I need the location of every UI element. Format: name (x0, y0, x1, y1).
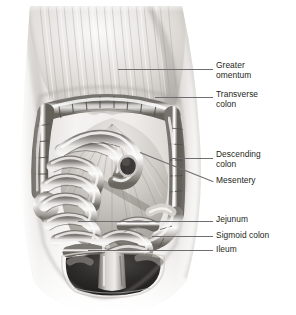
label-mesentery: Mesentery (216, 176, 256, 186)
leader-line-transverse-colon (155, 97, 213, 98)
label-sigmoid-colon: Sigmoid colon (216, 231, 269, 241)
label-jejunum: Jejunum (216, 215, 248, 225)
label-greater-omentum: Greater omentum (216, 61, 251, 80)
label-descending-colon: Descending colon (216, 150, 261, 169)
label-transverse-colon: Transverse colon (216, 90, 258, 109)
leader-line-descending-colon (172, 158, 213, 159)
leader-line-ileum (88, 250, 213, 251)
leader-line-jejunum (78, 221, 213, 222)
label-ileum: Ileum (216, 245, 237, 255)
leader-line-sigmoid-colon (152, 236, 213, 237)
leader-line-greater-omentum (118, 69, 213, 70)
